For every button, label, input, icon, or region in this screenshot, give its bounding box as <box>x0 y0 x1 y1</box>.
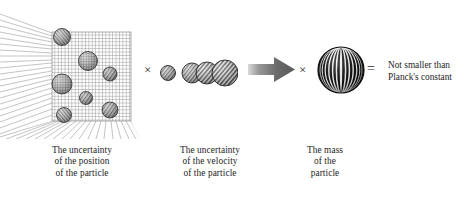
box-left-wall <box>0 4 55 139</box>
perspective-grid-box-icon <box>0 4 140 139</box>
planck-line-1: Not smaller than <box>388 60 474 72</box>
velocity-sphere <box>161 66 176 81</box>
striped-sphere-icon <box>317 45 365 95</box>
sphere-cluster-icon <box>158 53 238 93</box>
perspective-grid-box <box>0 4 140 139</box>
caption-position-line-3: of the particle <box>12 168 152 179</box>
caption-velocity-line-2: of the velocity <box>140 156 280 167</box>
caption-position: The uncertainty of the position of the p… <box>12 145 152 179</box>
particle-sphere <box>57 108 72 123</box>
velocity-sphere-cluster <box>158 53 238 93</box>
particle-sphere <box>103 67 117 81</box>
particle-sphere <box>80 92 93 105</box>
caption-mass-line-3: particle <box>275 168 375 179</box>
planck-constant-label: Not smaller than Planck's constant <box>388 60 474 83</box>
particle-sphere <box>102 102 118 118</box>
multiplication-sign-1: × <box>144 63 151 76</box>
velocity-sphere <box>212 60 238 86</box>
equals-sign: = <box>367 62 375 76</box>
caption-mass-line-1: The mass <box>275 145 375 156</box>
caption-position-line-2: of the position <box>12 156 152 167</box>
planck-line-2: Planck's constant <box>388 72 474 84</box>
caption-position-line-1: The uncertainty <box>12 145 152 156</box>
figure-canvas: × <box>0 0 475 199</box>
particle-sphere <box>52 74 72 94</box>
right-block-arrow <box>248 56 296 83</box>
caption-mass: The mass of the particle <box>275 145 375 179</box>
caption-mass-line-2: of the <box>275 156 375 167</box>
caption-velocity-line-3: of the particle <box>140 168 280 179</box>
caption-velocity: The uncertainty of the velocity of the p… <box>140 145 280 179</box>
mass-sphere <box>317 45 365 95</box>
particle-sphere <box>79 52 98 71</box>
multiplication-sign-2: × <box>299 63 306 76</box>
right-block-arrow-icon <box>248 56 296 83</box>
caption-velocity-line-1: The uncertainty <box>140 145 280 156</box>
particle-sphere <box>54 29 71 46</box>
